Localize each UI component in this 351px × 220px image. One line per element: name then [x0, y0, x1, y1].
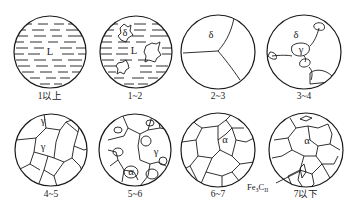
specimen-circle [269, 113, 343, 187]
phase-label-delta: δ [294, 29, 299, 40]
grain-boundary [310, 28, 319, 46]
panel-caption: 5~6 [128, 189, 143, 199]
gamma-nucleus [300, 59, 311, 67]
specimen-circle [267, 15, 341, 89]
annotation-leader-line [276, 171, 300, 183]
panel-caption: 4~5 [44, 189, 59, 199]
panel-caption: 6~7 [211, 189, 226, 199]
panel-caption: 1~2 [128, 91, 143, 101]
panel-delta: δ 2~3 [181, 15, 255, 101]
microstructure-diagram: L 1以上 δ L 1~2 [0, 0, 351, 220]
alpha-nucleus [114, 127, 122, 133]
phase-label-alpha: α [128, 166, 134, 177]
alpha-nucleus [141, 136, 151, 146]
gamma-nucleus [314, 23, 325, 31]
panel-gamma: γ γ 4~5 [15, 114, 90, 199]
cementite-network [300, 116, 312, 121]
phase-label-gamma: γ [298, 44, 304, 55]
specimen-circle [15, 114, 87, 186]
alpha-nucleus [146, 169, 158, 179]
specimen-circle [181, 15, 255, 89]
grain-boundaries [182, 114, 254, 190]
grain-boundary [272, 55, 292, 56]
phase-label-L: L [47, 46, 53, 57]
delta-particle [144, 42, 161, 62]
specimen-circle [181, 113, 255, 187]
phase-label-gamma: γ [40, 141, 46, 152]
panel-delta-gamma: δ γ 3~4 [267, 15, 341, 101]
panel-alpha-cementite: α Fe3CII 7以下 [247, 113, 343, 199]
gamma-nucleus [310, 70, 332, 84]
panel-caption: 1以上 [38, 91, 63, 101]
phase-label-delta: δ [123, 27, 128, 38]
panel-caption: 2~3 [211, 91, 226, 101]
panel-caption: 7以下 [294, 189, 319, 199]
grain-boundary [309, 67, 312, 80]
phase-label-L: L [131, 45, 137, 56]
grain-boundary [218, 51, 240, 80]
panel-liquid-delta: δ L 1~2 [100, 16, 172, 101]
grain-boundaries [16, 114, 90, 190]
panel-gamma-alpha: γ α 5~6 [99, 114, 171, 199]
alpha-nucleus [159, 157, 167, 165]
phase-label-delta: δ [209, 29, 214, 40]
phase-label-alpha: α [304, 135, 310, 146]
cementite-label: Fe3CII [247, 182, 268, 193]
phase-label-gamma: γ [153, 146, 159, 157]
panel-alpha: α 6~7 [181, 113, 255, 199]
phase-label-gamma: γ [40, 115, 46, 126]
phase-label-alpha: α [222, 134, 228, 145]
panel-caption: 3~4 [297, 91, 312, 101]
panel-liquid: L 1以上 [14, 16, 88, 101]
grain-boundaries [272, 118, 340, 188]
delta-particle [116, 60, 129, 74]
